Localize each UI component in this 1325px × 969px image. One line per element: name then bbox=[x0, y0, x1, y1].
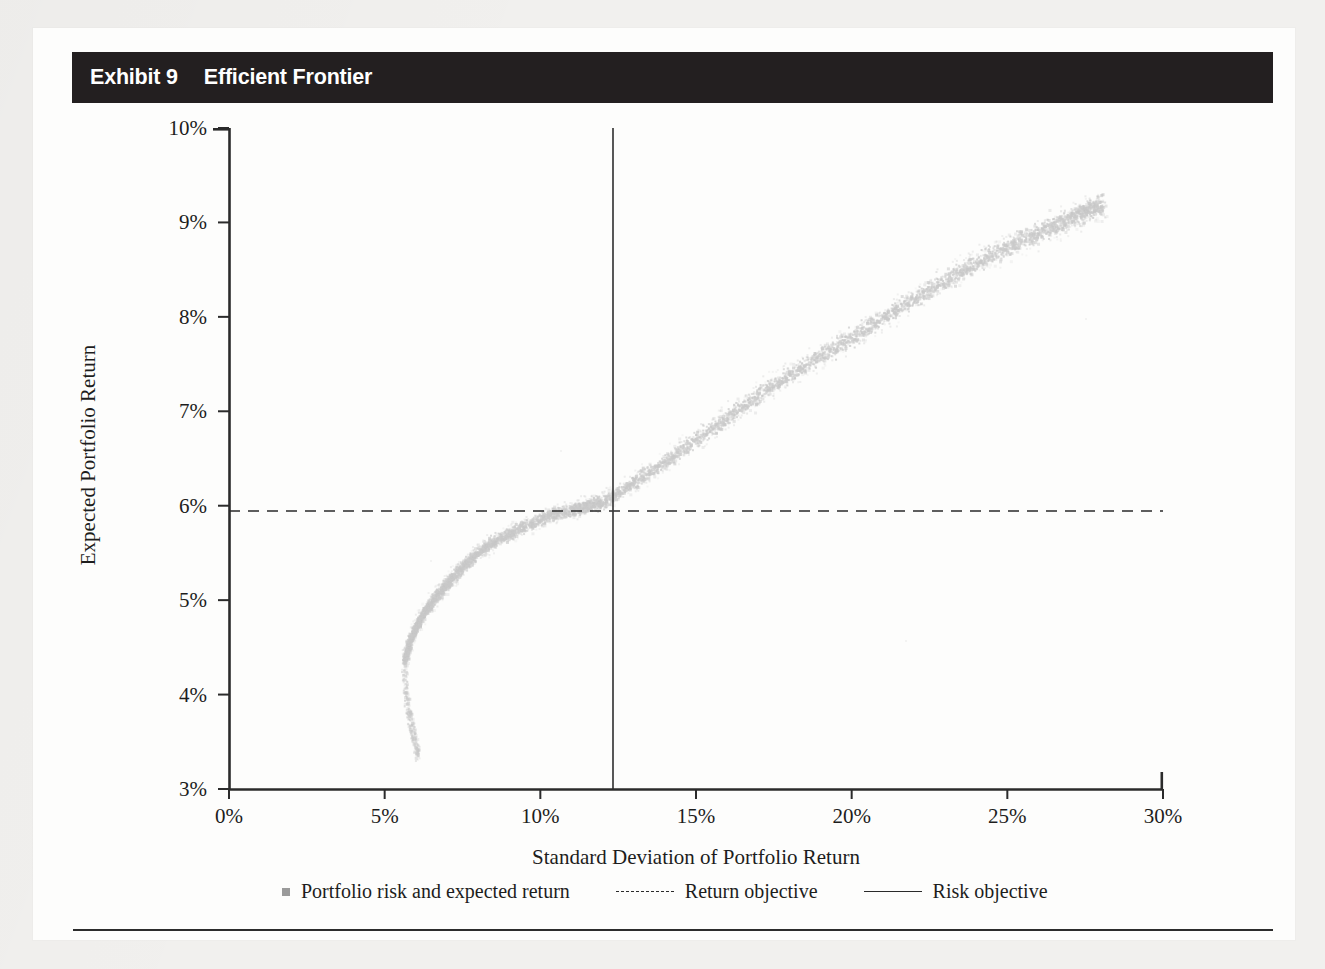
y-axis-tick-label: 5% bbox=[137, 588, 207, 613]
exhibit-number: Exhibit 9 bbox=[90, 65, 178, 90]
exhibit-header-bar: Exhibit 9 Efficient Frontier bbox=[72, 52, 1273, 103]
y-axis-tick-label: 3% bbox=[137, 777, 207, 802]
x-axis-tick-label: 30% bbox=[1144, 804, 1183, 829]
y-axis-title: Expected Portfolio Return bbox=[76, 345, 101, 565]
exhibit-title: Efficient Frontier bbox=[204, 65, 372, 90]
legend-label-risk-objective: Risk objective bbox=[933, 880, 1048, 903]
y-axis-tick-label: 6% bbox=[137, 493, 207, 518]
x-axis-tick-label: 10% bbox=[521, 804, 560, 829]
x-axis-tick-label: 25% bbox=[988, 804, 1027, 829]
x-axis-title: Standard Deviation of Portfolio Return bbox=[532, 845, 860, 870]
y-axis-tick-label: 10% bbox=[137, 116, 207, 141]
y-axis-tick-label: 4% bbox=[137, 682, 207, 707]
dashed-line-icon bbox=[616, 891, 674, 892]
y-axis-tick-label: 8% bbox=[137, 304, 207, 329]
x-axis-tick-label: 0% bbox=[215, 804, 243, 829]
y-axis-tick-label: 9% bbox=[137, 210, 207, 235]
x-axis-tick-label: 5% bbox=[371, 804, 399, 829]
solid-line-icon bbox=[864, 891, 922, 892]
x-axis-tick-label: 20% bbox=[832, 804, 871, 829]
page-bottom-rule bbox=[73, 929, 1273, 931]
legend-item-return-objective: Return objective bbox=[616, 880, 818, 903]
legend-item-risk-objective: Risk objective bbox=[864, 880, 1048, 903]
legend-item-portfolios: Portfolio risk and expected return bbox=[282, 880, 570, 903]
legend-label-return-objective: Return objective bbox=[685, 880, 818, 903]
scanned-page-background: Exhibit 9 Efficient Frontier 3%4%5%6%7%8… bbox=[0, 0, 1325, 969]
x-axis-tick-label: 15% bbox=[677, 804, 716, 829]
chart-legend: Portfolio risk and expected return Retur… bbox=[282, 880, 1048, 903]
y-axis-tick-label: 7% bbox=[137, 399, 207, 424]
square-marker-icon bbox=[282, 888, 290, 896]
legend-label-portfolios: Portfolio risk and expected return bbox=[301, 880, 570, 903]
